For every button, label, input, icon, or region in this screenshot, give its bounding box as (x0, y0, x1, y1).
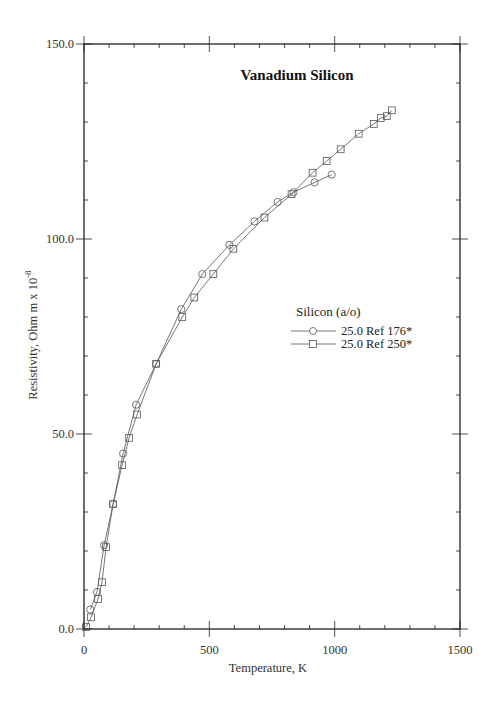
x-tick-label: 500 (200, 643, 219, 657)
legend-label: 25.0 Ref 176* (341, 324, 412, 338)
series-line (90, 175, 331, 610)
data-series (83, 107, 396, 631)
y-axis-title-text: Resistivity, Ohm m x 10 (26, 278, 40, 400)
x-tick-label: 1500 (448, 643, 473, 657)
series-ref-176 (87, 171, 336, 613)
y-axis-title: Resistivity, Ohm m x 10-8 (23, 270, 40, 400)
x-tick-label: 0 (81, 643, 87, 657)
y-tick-label: 0.0 (58, 622, 74, 636)
square-marker-icon (310, 341, 317, 348)
x-axis-title: Temperature, K (229, 661, 307, 675)
legend-label: 25.0 Ref 250* (341, 337, 412, 351)
series-ref-250 (83, 107, 396, 631)
y-tick-label: 50.0 (52, 427, 74, 441)
chart-title: Vanadium Silicon (240, 67, 354, 83)
series-line (86, 110, 392, 627)
legend: Silicon (a/o) 25.0 Ref 176* 25.0 Ref 250… (291, 304, 412, 351)
legend-title: Silicon (a/o) (296, 304, 361, 319)
svg-text:Resistivity, Ohm m x 10-8: Resistivity, Ohm m x 10-8 (23, 270, 40, 400)
y-tick-label: 100.0 (46, 232, 74, 246)
y-tick-label: 150.0 (46, 37, 74, 51)
y-axis-title-exponent: -8 (23, 270, 33, 278)
x-tick-label: 1000 (322, 643, 347, 657)
legend-entry-ref-176: 25.0 Ref 176* (291, 324, 412, 338)
circle-marker-icon (310, 328, 317, 335)
chart: 0500100015000.050.0100.0150.0 Vanadium S… (0, 0, 491, 705)
legend-entry-ref-250: 25.0 Ref 250* (291, 337, 412, 351)
